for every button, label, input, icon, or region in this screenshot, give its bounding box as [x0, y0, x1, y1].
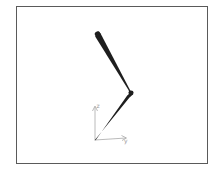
coordinate-axes [93, 106, 127, 141]
robot-arm-diagram: z y [0, 0, 220, 177]
horizontal-axis [95, 138, 126, 140]
horizontal-axis-label: y [124, 137, 128, 145]
upper-link [95, 31, 131, 92]
vertical-axis-label: z [97, 102, 100, 109]
lower-link [95, 92, 134, 141]
